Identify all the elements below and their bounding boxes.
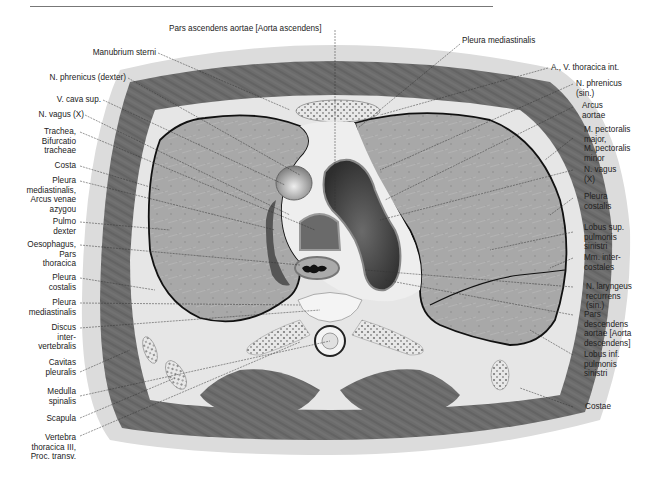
label-pleura-mediastinalis-top: Pleura mediastinalis [462,36,535,46]
label-a-v-thoracica-int: A., V. thoracica int. [551,63,619,73]
manubrium-sterni-shape [296,100,380,122]
label-scapula: Scapula [46,414,76,424]
label-cavitas-pleuralis: Cavitas pleuralis [46,358,77,377]
label-pars-ascendens-aortae: Pars ascendens aortae [Aorta ascendens] [169,24,321,34]
scapula-right [491,360,509,390]
label-costa: Costa [55,161,76,171]
label-pleura-costalis-right: Pleura costalis [584,192,611,211]
label-lobus-sup: Lobus sup. pulmonis sinistri [584,223,624,252]
label-oesophagus: Oesophagus, Pars thoracica [27,240,76,269]
label-lobus-inf: Lobus inf. pulmonis sinistri [584,350,620,379]
label-v-cava-sup: V. cava sup. [57,95,101,105]
label-n-phrenicus-sin: N. phrenicus (sin.) [576,79,622,98]
label-n-laryngeus: N. laryngeus recurrens (sin.) [586,282,632,311]
label-n-vagus-left: N. vagus (X) [39,110,85,120]
label-n-vagus-right: N. vagus (X) [584,165,616,184]
label-mm-intercostales: Mm. inter- costales [584,253,621,272]
label-costae: Costae [585,402,611,412]
vena-cava-superior [276,166,312,200]
label-n-phrenicus-dexter: N. phrenicus (dexter) [50,73,126,83]
label-pleura-mediastinalis-left: Pleura mediastinalis [29,298,76,317]
label-trachea: Trachea, Bifurcatio tracheae [42,127,76,156]
label-manubrium-sterni: Manubrium sterni [93,48,156,58]
label-pleura-mediastinalis-arcus: Pleura mediastinalis, Arcus venae azygou [26,176,76,214]
label-vertebra-thoracica: Vertebra thoracica III, Proc. transv. [31,433,76,462]
label-discus-intervertebralis: Discus inter- vertebralis [38,323,76,352]
label-pleura-costalis-left: Pleura costalis [49,273,76,292]
label-arcus-aortae: Arcus aortae [582,101,605,120]
label-pulmo-dexter: Pulmo dexter [53,217,76,236]
label-pars-descendens-aortae: Pars descendens aortae [Aorta descendens… [584,310,631,348]
label-m-pectoralis: M. pectoralis major, M. pectoralis minor [584,125,630,163]
label-medulla-spinalis: Medulla spinalis [47,387,76,406]
trachea [300,214,340,250]
